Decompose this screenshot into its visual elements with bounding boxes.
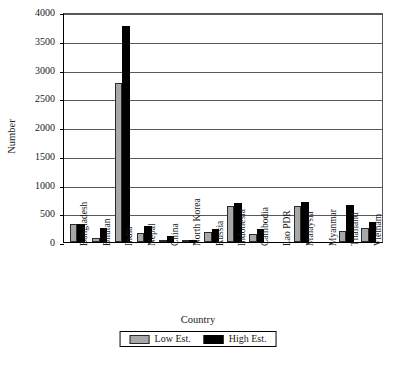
x-axis-tick: North Korea [178, 244, 201, 310]
bar-low [339, 231, 347, 243]
x-axis-tick: Bhutan [88, 244, 111, 310]
x-axis-tick: Nepal [133, 244, 156, 310]
x-axis-tick-label: Indonesia [238, 209, 248, 246]
x-axis-tick-label: Myanmar [329, 209, 339, 246]
bar-low [137, 233, 145, 242]
y-axis-tick-label: 500 [13, 209, 55, 219]
y-axis-tick-label: 2000 [13, 123, 55, 133]
bar-low [249, 234, 257, 242]
y-axis-tick-label: 0 [13, 238, 55, 248]
legend-label: High Est. [229, 334, 267, 344]
bar-low [92, 238, 100, 242]
x-axis-tick-label: Bhutan [103, 219, 113, 246]
y-axis-title: Number [2, 96, 20, 176]
bar-group [268, 14, 290, 242]
x-axis-tick-labels: BangladeshBhutanIndiaNepalChinaNorth Kor… [63, 244, 383, 310]
bar-group [335, 14, 357, 242]
x-axis-tick-label: North Korea [193, 198, 203, 246]
x-axis-tick-label: Bangladesh [80, 202, 90, 246]
y-axis-tick-label: 1500 [13, 152, 55, 162]
y-axis-tick-label: 4000 [13, 8, 55, 18]
x-axis-tick-label: China [171, 223, 181, 246]
x-axis-tick-label: Thailand [351, 212, 361, 246]
bar-group [111, 14, 133, 242]
x-axis-tick: China [155, 244, 178, 310]
bar-group [223, 14, 245, 242]
bar-low [294, 206, 302, 242]
bar-low [361, 228, 369, 242]
x-axis-tick: Vietnam [359, 244, 382, 310]
y-axis-tick-label: 1000 [13, 181, 55, 191]
bar-low [182, 240, 190, 242]
bar-group [156, 14, 178, 242]
legend-item: Low Est. [130, 334, 191, 344]
x-axis-tick: Myanmar [313, 244, 336, 310]
x-axis-tick: Bangladesh [65, 244, 88, 310]
bar-group [357, 14, 379, 242]
bar-high [122, 26, 130, 242]
y-axis-tick-label: 3000 [13, 66, 55, 76]
x-axis-tick: Indonesia [223, 244, 246, 310]
bar-group [133, 14, 155, 242]
bar-group [201, 14, 223, 242]
chart-legend: Low Est.High Est. [120, 331, 277, 347]
x-axis-tick: India [110, 244, 133, 310]
bar-low [204, 232, 212, 242]
x-axis-tick: Malaysia [291, 244, 314, 310]
bar-group [290, 14, 312, 242]
bar-low [115, 83, 123, 242]
black-swatch [204, 335, 224, 344]
y-axis-tick-label: 3500 [13, 37, 55, 47]
x-axis-tick-label: Malaysia [306, 211, 316, 246]
x-axis-tick: Cambodia [246, 244, 269, 310]
x-axis-title: Country [0, 314, 396, 325]
x-axis-tick-label: Nepal [148, 223, 158, 246]
x-axis-tick-label: Vietnam [374, 214, 384, 246]
bar-chart-figure: Number 05001000150020002500300035004000 … [0, 0, 396, 366]
y-axis-tick-label: 2500 [13, 94, 55, 104]
legend-label: Low Est. [155, 334, 191, 344]
x-axis-tick: Russia [200, 244, 223, 310]
x-axis-tick: Lao PDR [268, 244, 291, 310]
grey-swatch [130, 335, 150, 344]
bar-low [227, 206, 235, 242]
bar-group [88, 14, 110, 242]
bar-low [70, 224, 78, 242]
x-axis-title-label: Country [181, 314, 215, 325]
x-axis-tick-label: Lao PDR [283, 210, 293, 246]
x-axis-tick-label: Russia [216, 221, 226, 246]
x-axis-tick-label: Cambodia [261, 207, 271, 246]
bar-series-container [64, 14, 382, 242]
x-axis-tick: Thailand [336, 244, 359, 310]
bar-low [159, 240, 167, 242]
bar-group [313, 14, 335, 242]
legend-item: High Est. [204, 334, 267, 344]
